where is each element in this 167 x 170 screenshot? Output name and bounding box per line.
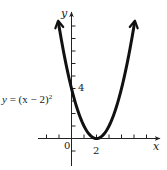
y-tick-label-4: 4 xyxy=(78,83,84,93)
y-axis-label: y xyxy=(61,8,67,19)
origin-label: 0 xyxy=(64,141,70,151)
equation-label: y = (x − 2)2 xyxy=(2,94,52,105)
parabola-curve xyxy=(58,22,134,138)
equation-rhs: (x − 2) xyxy=(19,93,49,105)
x-tick-label-2: 2 xyxy=(93,146,99,156)
equation-lhs: y xyxy=(2,93,7,105)
x-axis-label: x xyxy=(153,141,159,152)
equation-exponent: 2 xyxy=(49,93,53,101)
equation-equals: = xyxy=(10,93,16,105)
